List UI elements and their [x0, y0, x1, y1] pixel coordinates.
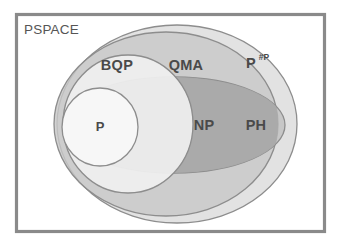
pspace-label: PSPACE [24, 22, 79, 37]
p-label: P [96, 119, 105, 134]
p-sharp-p-superscript-label: #P [259, 52, 270, 62]
venn-diagram-canvas: PSPACE BQP QMA P #P NP PH P [0, 0, 341, 249]
p-sharp-p-base-label: P [246, 55, 256, 71]
np-label: NP [194, 117, 215, 133]
bqp-label: BQP [101, 57, 133, 73]
qma-label: QMA [169, 57, 204, 73]
ph-label: PH [246, 117, 267, 133]
complexity-class-venn-diagram: PSPACE BQP QMA P #P NP PH P [0, 0, 341, 249]
